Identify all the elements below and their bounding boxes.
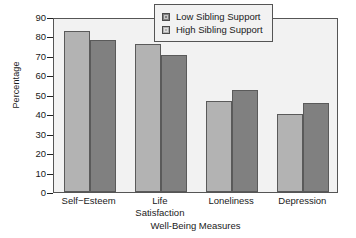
x-axis-title: Well-Being Measures: [53, 220, 338, 231]
y-axis-tick-mark: [47, 18, 53, 19]
bar: [277, 114, 303, 192]
x-axis-category-label-line1: Life: [152, 195, 167, 206]
y-axis-tick-mark: [47, 76, 53, 77]
y-axis-tick-label: 20: [18, 149, 46, 159]
legend-item: Low Sibling Support: [162, 10, 263, 23]
x-axis-category-label-line1: Depression: [278, 195, 326, 206]
chart-legend: Low Sibling SupportHigh Sibling Support: [154, 4, 273, 42]
x-axis-category-label-line1: Loneliness: [208, 195, 253, 206]
y-axis-tick-label: 60: [18, 71, 46, 81]
bar: [232, 90, 258, 192]
legend-label: High Sibling Support: [176, 25, 263, 35]
legend-item: High Sibling Support: [162, 23, 263, 36]
y-axis-tick-mark: [47, 174, 53, 175]
y-axis-tick-label: 10: [18, 169, 46, 179]
y-axis-tick-label: 0: [18, 188, 46, 198]
x-axis-category-label: LifeSatisfaction: [124, 195, 195, 218]
y-axis-tick-label: 90: [18, 13, 46, 23]
y-axis-tick-labels: 0102030405060708090: [18, 18, 46, 193]
y-axis-tick-label: 30: [18, 130, 46, 140]
x-axis-category-label: Depression: [267, 195, 338, 207]
bar: [206, 101, 232, 192]
y-axis-tick-label: 80: [18, 32, 46, 42]
legend-color-swatch: [162, 13, 170, 21]
bar: [90, 40, 116, 192]
x-axis-category-label-line1: Self−Esteem: [62, 195, 116, 206]
legend-color-swatch: [162, 26, 170, 34]
y-axis-tick-mark: [47, 154, 53, 155]
y-axis-tick-label: 70: [18, 52, 46, 62]
plot-area: [53, 18, 338, 193]
y-axis-tick-mark: [47, 135, 53, 136]
bar: [161, 55, 187, 192]
bar-chart: Percentage 0102030405060708090 Low Sibli…: [0, 0, 356, 238]
x-axis-category-label-line2: Satisfaction: [124, 207, 195, 219]
bar: [303, 103, 329, 192]
y-axis-tick-mark: [47, 37, 53, 38]
y-axis-tick-mark: [47, 96, 53, 97]
bar: [135, 44, 161, 192]
x-axis-category-label: Loneliness: [196, 195, 267, 207]
plot-bars-layer: [54, 19, 337, 192]
y-axis-tick-label: 40: [18, 110, 46, 120]
x-axis-category-label: Self−Esteem: [53, 195, 124, 207]
y-axis-tick-mark: [47, 57, 53, 58]
bar: [64, 31, 90, 192]
y-axis-tick-mark: [47, 193, 53, 194]
y-axis-tick-mark: [47, 115, 53, 116]
legend-label: Low Sibling Support: [176, 12, 261, 22]
y-axis-tick-label: 50: [18, 91, 46, 101]
